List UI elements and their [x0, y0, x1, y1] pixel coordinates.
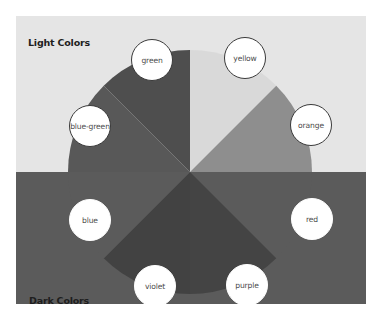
label-blue-green: blue-green	[69, 105, 111, 147]
label-green: green	[131, 39, 173, 81]
color-wheel-segments	[68, 50, 312, 294]
label-violet: violet	[134, 265, 176, 307]
label-yellow: yellow	[224, 37, 266, 79]
light-colors-title: Light Colors	[28, 37, 90, 48]
label-purple: purple	[226, 264, 268, 306]
label-blue: blue	[69, 199, 111, 241]
color-wheel-canvas	[0, 0, 380, 330]
dark-colors-title: Dark Colors	[29, 295, 89, 306]
color-wheel-diagram: Light Colors Dark Colors green yellow bl…	[0, 0, 380, 330]
label-orange: orange	[290, 104, 332, 146]
label-red: red	[291, 198, 333, 240]
